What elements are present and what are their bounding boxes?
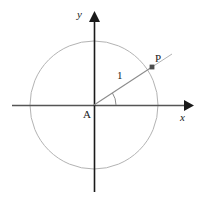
unit-circle-diagram: y x A P 1 — [0, 0, 197, 204]
x-axis-label: x — [180, 112, 185, 123]
diagram-canvas — [0, 0, 197, 204]
y-axis-arrow-icon — [89, 11, 100, 22]
radius-length-label: 1 — [117, 70, 123, 81]
point-p-marker — [150, 65, 155, 70]
point-p-label: P — [155, 53, 161, 64]
x-axis-arrow-icon — [184, 100, 194, 111]
radius-segment — [94, 67, 152, 105]
origin-label: A — [83, 109, 91, 120]
angle-arc — [112, 93, 116, 105]
y-axis-label: y — [77, 9, 82, 20]
